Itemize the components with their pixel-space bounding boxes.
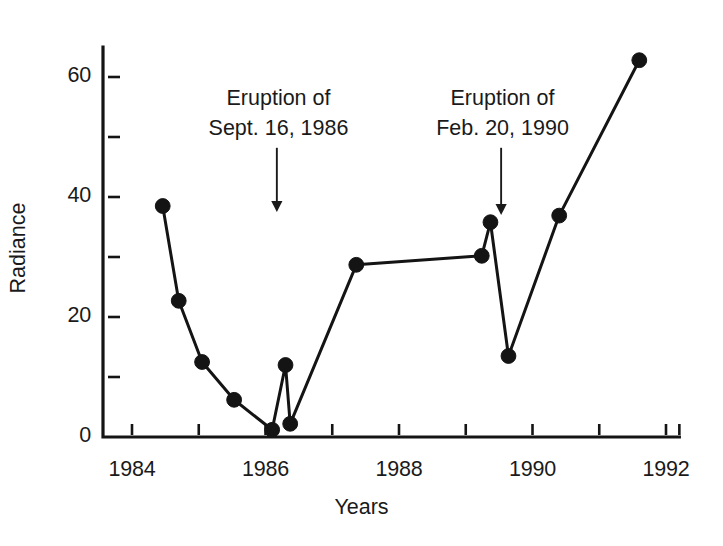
x-tick-label: 1992 xyxy=(616,457,716,482)
chart-figure: 0204060 19841986198819901992 Radiance Ye… xyxy=(0,0,723,546)
annotation-eruption-2: Eruption of Feb. 20, 1990 xyxy=(405,83,600,143)
data-point xyxy=(278,358,293,373)
annotation-eruption-1: Eruption of Sept. 16, 1986 xyxy=(181,83,376,143)
y-tick-label: 0 xyxy=(7,423,91,448)
x-tick-label: 1988 xyxy=(349,457,449,482)
data-point xyxy=(552,208,567,223)
chart-annotation-arrows xyxy=(271,148,506,215)
data-point xyxy=(283,416,298,431)
x-tick-label: 1986 xyxy=(216,457,316,482)
data-point xyxy=(227,392,242,407)
x-tick-label: 1984 xyxy=(82,457,182,482)
data-point xyxy=(501,349,516,364)
annotation-eruption-1-line2: Sept. 16, 1986 xyxy=(181,113,376,143)
data-point xyxy=(155,199,170,214)
data-point xyxy=(474,248,489,263)
data-point xyxy=(265,422,280,437)
y-tick-label: 60 xyxy=(7,63,91,88)
x-axis-title: Years xyxy=(0,495,723,520)
annotation-eruption-1-line1: Eruption of xyxy=(181,83,376,113)
annotation-arrow-head-0 xyxy=(271,201,282,212)
y-axis-title: Radiance xyxy=(6,168,31,328)
annotation-eruption-2-line2: Feb. 20, 1990 xyxy=(405,113,600,143)
annotation-arrow-head-1 xyxy=(496,204,507,215)
x-tick-label: 1990 xyxy=(483,457,583,482)
data-point xyxy=(195,355,210,370)
data-point xyxy=(483,215,498,230)
annotation-eruption-2-line1: Eruption of xyxy=(405,83,600,113)
data-point xyxy=(349,257,364,272)
data-point xyxy=(632,53,647,68)
data-point xyxy=(171,293,186,308)
